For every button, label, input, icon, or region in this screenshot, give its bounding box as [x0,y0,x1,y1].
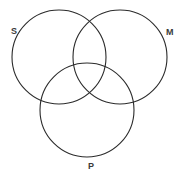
circle-label-m: M [166,28,174,37]
venn-diagram-svg [0,0,183,178]
circle-m [73,10,167,104]
circle-p [40,63,134,157]
circle-s [12,10,106,104]
venn-diagram: S M P [0,0,183,178]
circle-label-p: P [88,162,94,171]
circle-label-s: S [11,27,17,36]
